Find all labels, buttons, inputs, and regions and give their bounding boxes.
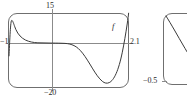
right-curve xyxy=(0,0,187,107)
two-panel-graph-figure: 15 −1 2.1 −20 f −0.5 xyxy=(0,0,187,107)
right-left-tick xyxy=(162,81,167,82)
right-bottom-left-label: −0.5 xyxy=(143,77,157,85)
